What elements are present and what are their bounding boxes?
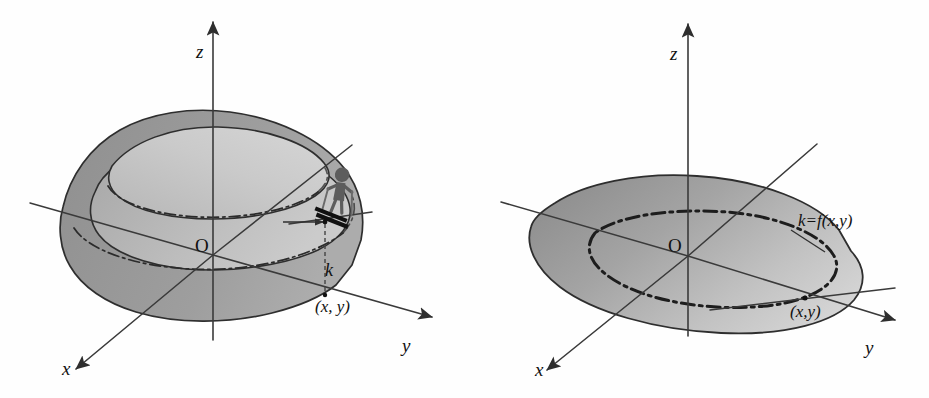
level-curve-label: k=f(x,y): [798, 211, 853, 230]
origin-label: O: [668, 235, 682, 256]
origin-label: O: [195, 235, 209, 256]
figure-root: z y x O k (x, y): [0, 0, 929, 398]
left-panel-svg: z y x O k (x, y): [0, 0, 465, 398]
xy-point-label: (x, y): [315, 297, 350, 316]
height-label-k: k: [325, 260, 334, 280]
skier-leg-right: [340, 201, 344, 213]
right-panel: z y x O k=f(x,y) (x,y): [465, 0, 929, 398]
right-panel-svg: z y x O k=f(x,y) (x,y): [465, 0, 929, 398]
xy-point-label: (x,y): [790, 302, 821, 321]
x-axis-label: x: [534, 359, 544, 380]
x-axis-label: x: [61, 358, 71, 379]
left-panel: z y x O k (x, y): [0, 0, 465, 398]
z-axis-label: z: [669, 43, 678, 64]
y-axis-label: y: [400, 335, 411, 356]
y-axis-label: y: [863, 337, 874, 358]
xy-point-dot: [803, 296, 808, 301]
z-axis-label: z: [195, 41, 204, 62]
